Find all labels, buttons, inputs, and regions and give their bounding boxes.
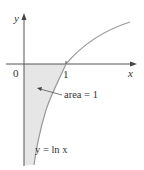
origin-label: 0	[13, 67, 19, 79]
y-axis-label: y	[13, 12, 19, 24]
area-label: area = 1	[64, 89, 98, 100]
x-axis-arrow-icon	[130, 62, 137, 67]
x-axis-label: x	[127, 67, 133, 79]
y-axis-arrow-icon	[22, 13, 27, 20]
ln-area-diagram: y x 0 1 area = 1 y = ln x	[0, 0, 144, 170]
tick-label-1: 1	[63, 68, 69, 80]
curve-label: y = ln x	[35, 144, 68, 155]
